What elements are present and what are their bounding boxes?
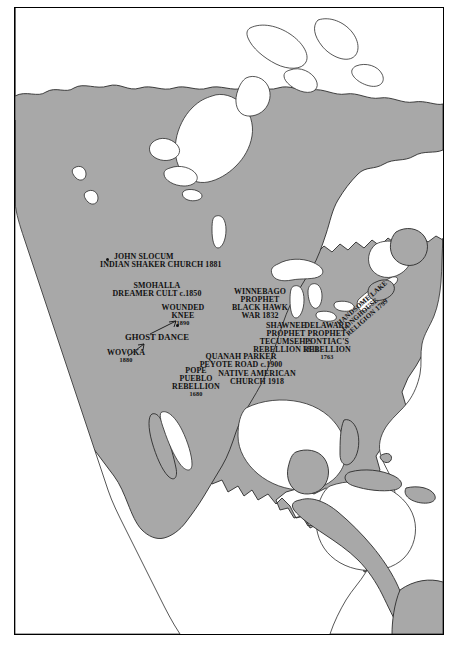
water-arctic-channel-4: [352, 64, 384, 86]
label-line: INDIAN SHAKER CHURCH 1881: [100, 261, 222, 269]
land-newfoundland: [390, 229, 427, 266]
label-line-year: 1880: [100, 357, 152, 363]
label-line-year: 1763: [296, 354, 358, 360]
land-yucatan-peninsula: [287, 450, 328, 494]
water-arctic-channel-2: [315, 19, 358, 60]
label-wovoka: WOVOKA 1880: [100, 349, 152, 363]
label-winnebago-prophet: WINNEBAGO PROPHET BLACK HAWK WAR 1832: [226, 288, 294, 320]
label-line-year: 1680: [168, 391, 224, 397]
label-native-american-church: NATIVE AMERICAN CHURCH 1918: [216, 370, 298, 386]
label-line: DREAMER CULT c.1850: [106, 290, 208, 298]
label-quanah-parker: QUANAH PARKER PEYOTE ROAD c.1900: [196, 353, 286, 369]
north-america-movements-map: JOHN SLOCUM INDIAN SHAKER CHURCH 1881 SM…: [0, 0, 458, 654]
label-line: GHOST DANCE: [118, 333, 196, 342]
label-line: WAR 1832: [226, 312, 294, 320]
label-ghost-dance: GHOST DANCE: [118, 333, 196, 342]
label-line: CHURCH 1918: [216, 378, 298, 386]
water-arctic-channel-1: [247, 25, 307, 68]
label-john-slocum: JOHN SLOCUM INDIAN SHAKER CHURCH 1881: [100, 253, 222, 269]
land-bahamas: [380, 453, 391, 462]
label-smohalla: SMOHALLA DREAMER CULT c.1850: [106, 282, 208, 298]
label-line: PEYOTE ROAD c.1900: [196, 361, 286, 369]
map-geography-canvas: [0, 0, 458, 654]
